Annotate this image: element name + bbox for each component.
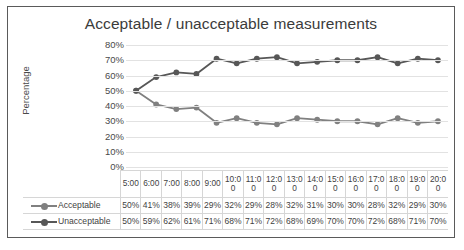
table-cell: 71%: [243, 214, 263, 230]
chart-title: Acceptable / unacceptable measurements: [8, 15, 454, 33]
table-cell: 31%: [305, 198, 325, 214]
y-tick-label: 60%: [86, 71, 124, 81]
series-line-acceptable: [136, 91, 438, 125]
y-axis-tick-labels: 80%70%60%50%40%30%20%10%0%: [86, 45, 124, 167]
data-point-marker: [153, 74, 159, 80]
table-cell: 29%: [407, 198, 427, 214]
table-column-header: 18:00: [387, 171, 407, 198]
data-point-marker: [395, 60, 401, 66]
table-cell: 32%: [284, 198, 304, 214]
table-cell: 50%: [121, 214, 141, 230]
table-cell: 29%: [202, 198, 222, 214]
table-column-header: 19:00: [407, 171, 427, 198]
gridline: [126, 91, 448, 92]
y-tick-label: 20%: [86, 132, 124, 142]
legend-marker-icon: [31, 217, 57, 226]
chart-frame: Acceptable / unacceptable measurements P…: [7, 6, 455, 238]
y-tick-label: 40%: [86, 101, 124, 111]
legend-item-unacceptable[interactable]: Unacceptable: [23, 214, 121, 230]
legend-entry: Acceptable: [23, 201, 120, 211]
table-cell: 28%: [264, 198, 284, 214]
table-column-header: 13:00: [284, 171, 304, 198]
data-table: 5:006:007:008:009:0010:0011:0012:0013:00…: [23, 170, 448, 230]
plot-area: [126, 45, 448, 167]
gridline: [126, 106, 448, 107]
series-line-unacceptable: [136, 57, 438, 91]
table-column-header: 17:00: [366, 171, 386, 198]
table-cell: 69%: [305, 214, 325, 230]
legend-marker-icon: [31, 201, 57, 210]
table-column-header: 12:00: [264, 171, 284, 198]
gridline: [126, 60, 448, 61]
legend-entry: Unacceptable: [23, 217, 120, 227]
table-cell: 70%: [325, 214, 345, 230]
table-corner-cell: [23, 171, 121, 198]
table-cell: 68%: [387, 214, 407, 230]
table-column-header: 10:00: [223, 171, 243, 198]
y-tick-label: 80%: [86, 40, 124, 50]
legend-dot: [41, 219, 48, 226]
legend-dot: [41, 203, 48, 210]
table-cell: 28%: [366, 198, 386, 214]
table-cell: 70%: [428, 214, 448, 230]
table-cell: 38%: [161, 198, 181, 214]
table-column-header: 8:00: [182, 171, 202, 198]
gridline: [126, 152, 448, 153]
table-cell: 61%: [182, 214, 202, 230]
table-cell: 39%: [182, 198, 202, 214]
y-tick-label: 10%: [86, 147, 124, 157]
table-column-header: 14:00: [305, 171, 325, 198]
y-tick-label: 30%: [86, 117, 124, 127]
table-cell: 62%: [161, 214, 181, 230]
table-cell: 30%: [346, 198, 366, 214]
legend-label: Unacceptable: [57, 217, 111, 227]
gridline: [126, 121, 448, 122]
data-point-marker: [274, 121, 280, 127]
table-cell: 30%: [428, 198, 448, 214]
table-column-header: 7:00: [161, 171, 181, 198]
gridline: [126, 167, 448, 168]
table-cell: 68%: [223, 214, 243, 230]
y-tick-label: 50%: [86, 86, 124, 96]
table-cell: 71%: [407, 214, 427, 230]
table-cell: 29%: [243, 198, 263, 214]
data-point-marker: [234, 60, 240, 66]
table-cell: 70%: [346, 214, 366, 230]
table-column-header: 6:00: [141, 171, 161, 198]
table-column-header: 15:00: [325, 171, 345, 198]
table-cell: 41%: [141, 198, 161, 214]
data-table-body: 5:006:007:008:009:0010:0011:0012:0013:00…: [23, 171, 448, 230]
table-cell: 72%: [366, 214, 386, 230]
gridline: [126, 45, 448, 46]
table-cell: 72%: [264, 214, 284, 230]
table-column-header: 5:00: [121, 171, 141, 198]
table-cell: 32%: [387, 198, 407, 214]
data-point-marker: [173, 106, 179, 112]
gridline: [126, 76, 448, 77]
table-header-row: 5:006:007:008:009:0010:0011:0012:0013:00…: [23, 171, 448, 198]
table-row: Unacceptable50%59%62%61%71%68%71%72%68%6…: [23, 214, 448, 230]
table-cell: 68%: [284, 214, 304, 230]
y-axis-title: Percentage: [20, 46, 31, 136]
table-cell: 32%: [223, 198, 243, 214]
data-point-marker: [375, 121, 381, 127]
table-column-header: 11:00: [243, 171, 263, 198]
table-cell: 59%: [141, 214, 161, 230]
table-column-header: 16:00: [346, 171, 366, 198]
table-cell: 50%: [121, 198, 141, 214]
legend-item-acceptable[interactable]: Acceptable: [23, 198, 121, 214]
y-tick-label: 70%: [86, 56, 124, 66]
table-column-header: 20:00: [428, 171, 448, 198]
table-cell: 30%: [325, 198, 345, 214]
table-cell: 71%: [202, 214, 222, 230]
legend-label: Acceptable: [57, 201, 101, 211]
table-column-header: 9:00: [202, 171, 222, 198]
table-row: Acceptable50%41%38%39%29%32%29%28%32%31%…: [23, 198, 448, 214]
data-point-marker: [294, 60, 300, 66]
data-point-marker: [173, 70, 179, 76]
gridline: [126, 137, 448, 138]
